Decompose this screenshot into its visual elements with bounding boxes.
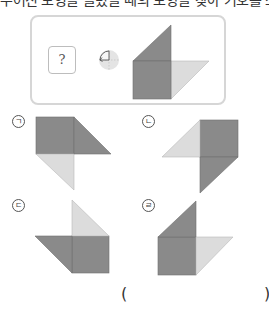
light-shape xyxy=(72,200,109,236)
top-triangle xyxy=(133,25,171,61)
dark-shape xyxy=(35,236,72,273)
answer-close-paren: ) xyxy=(264,284,269,303)
option-d-figure[interactable] xyxy=(158,201,233,275)
dark-shape xyxy=(158,237,196,275)
option-a-label: ㄱ xyxy=(12,115,25,128)
answer-blank[interactable] xyxy=(132,286,260,304)
light-shape xyxy=(162,120,200,157)
dark-shape xyxy=(72,236,109,273)
option-b-label: ㄴ xyxy=(142,115,155,128)
dark-shape xyxy=(200,120,238,157)
figures-canvas xyxy=(0,0,269,309)
rotate-counterclockwise-90-icon xyxy=(99,50,119,70)
light-shape xyxy=(36,154,74,190)
option-a-figure[interactable] xyxy=(36,117,111,190)
dark-shape xyxy=(200,157,238,193)
option-b-figure[interactable] xyxy=(162,120,238,193)
original-figure xyxy=(133,25,209,99)
dark-shape xyxy=(158,201,196,237)
dark-shape xyxy=(36,117,74,154)
light-shape xyxy=(196,237,233,275)
square xyxy=(133,61,171,99)
option-c-label: ㄷ xyxy=(12,199,25,212)
option-c-figure[interactable] xyxy=(35,200,109,273)
answer-open-paren: ( xyxy=(121,284,127,303)
dark-shape xyxy=(74,117,111,154)
option-d-label: ㄹ xyxy=(142,199,155,212)
right-triangle xyxy=(171,61,209,99)
